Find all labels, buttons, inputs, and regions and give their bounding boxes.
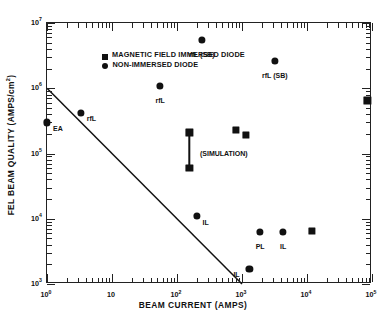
x-tick xyxy=(86,278,87,283)
x-tick xyxy=(372,274,373,282)
x-tick xyxy=(216,278,217,283)
x-tick xyxy=(287,278,288,283)
y-tick xyxy=(47,49,52,50)
legend-label-non-immersed: NON-IMMERSED DIODE xyxy=(112,61,198,70)
data-point-label: (SIMULATION) xyxy=(200,150,248,157)
data-point-label: rfL xyxy=(155,97,164,104)
y-tick-right xyxy=(366,229,371,230)
data-point-circle xyxy=(193,212,200,219)
x-tick-top xyxy=(132,23,133,28)
x-tick xyxy=(171,278,172,283)
y-tick-right xyxy=(366,134,371,135)
data-point-circle xyxy=(77,109,84,116)
y-tick-label: 103 xyxy=(16,279,42,288)
x-tick-top xyxy=(106,23,107,28)
x-tick-top xyxy=(92,23,93,28)
y-tick xyxy=(47,179,52,180)
x-tick xyxy=(157,278,158,283)
x-tick xyxy=(109,278,110,283)
x-tick xyxy=(47,274,48,282)
y-tick xyxy=(47,225,52,226)
y-tick xyxy=(47,91,52,92)
x-tick-top xyxy=(222,23,223,28)
x-tick-top xyxy=(307,23,308,31)
y-tick-right xyxy=(362,88,370,89)
x-tick xyxy=(262,278,263,283)
data-point-circle xyxy=(198,36,205,43)
y-tick xyxy=(47,219,55,220)
y-tick xyxy=(47,222,52,223)
x-tick xyxy=(177,274,178,282)
x-tick xyxy=(67,278,68,283)
y-tick-right xyxy=(366,156,371,157)
x-tick-top xyxy=(177,23,178,31)
error-bar xyxy=(189,132,190,168)
x-tick xyxy=(167,278,168,283)
x-tick-top xyxy=(151,23,152,28)
y-tick xyxy=(47,43,52,44)
y-tick xyxy=(47,238,52,239)
x-axis-title: BEAM CURRENT (AMPS) xyxy=(0,300,386,310)
x-tick xyxy=(352,278,353,283)
data-point-label: rfL xyxy=(87,115,96,122)
x-tick xyxy=(132,278,133,283)
x-tick-top xyxy=(293,23,294,28)
y-tick-right xyxy=(366,238,371,239)
data-point-circle xyxy=(157,82,164,89)
y-tick-right xyxy=(366,179,371,180)
y-tick-right xyxy=(366,199,371,200)
x-tick-top xyxy=(208,23,209,28)
x-tick xyxy=(346,278,347,283)
y-tick-label: 105 xyxy=(16,148,42,157)
circle-marker-icon xyxy=(102,63,108,69)
x-tick xyxy=(362,278,363,283)
y-tick-right xyxy=(366,43,371,44)
x-tick-top xyxy=(273,23,274,28)
x-tick xyxy=(163,278,164,283)
x-tick-top xyxy=(232,23,233,28)
x-tick-top xyxy=(262,23,263,28)
y-tick xyxy=(47,253,52,254)
y-tick-right xyxy=(366,108,371,109)
y-tick-right xyxy=(366,233,371,234)
x-tick xyxy=(338,278,339,283)
x-tick xyxy=(327,278,328,283)
x-tick-top xyxy=(338,23,339,28)
y-tick-label: 107 xyxy=(16,18,42,27)
x-tick xyxy=(304,278,305,283)
x-tick-label: 103 xyxy=(236,290,247,299)
x-tick-top xyxy=(109,23,110,28)
x-tick-label: 10 xyxy=(107,290,115,299)
y-tick xyxy=(47,245,52,246)
y-tick xyxy=(47,108,52,109)
y-axis-title-tail: ) xyxy=(6,75,16,78)
x-tick-label: 105 xyxy=(366,290,377,299)
x-tick-top xyxy=(197,23,198,28)
x-tick xyxy=(197,278,198,283)
y-tick xyxy=(47,26,52,27)
x-tick-top xyxy=(157,23,158,28)
x-tick-top xyxy=(304,23,305,28)
y-tick-right xyxy=(362,23,370,24)
legend-item-immersed: MAGNETIC FIELD IMMERSED DIODE xyxy=(102,51,245,60)
y-tick xyxy=(47,23,55,24)
x-tick-top xyxy=(163,23,164,28)
x-tick-top xyxy=(327,23,328,28)
x-tick xyxy=(112,274,113,282)
y-tick xyxy=(47,229,52,230)
legend: MAGNETIC FIELD IMMERSED DIODE NON-IMMERS… xyxy=(102,51,245,70)
y-tick xyxy=(47,134,52,135)
y-tick-right xyxy=(366,114,371,115)
x-tick xyxy=(78,278,79,283)
x-tick-top xyxy=(358,23,359,28)
data-point-square xyxy=(242,132,249,139)
y-tick-right xyxy=(366,37,371,38)
data-point-square xyxy=(186,164,193,171)
square-marker-icon xyxy=(102,54,108,60)
x-tick xyxy=(106,278,107,283)
x-tick xyxy=(92,278,93,283)
x-tick xyxy=(228,278,229,283)
y-tick-right xyxy=(366,160,371,161)
y-tick xyxy=(47,69,52,70)
x-tick xyxy=(293,278,294,283)
